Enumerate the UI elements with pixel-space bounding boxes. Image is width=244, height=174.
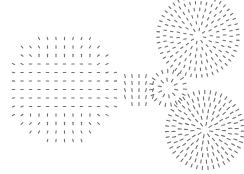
dash-glyph	[188, 94, 189, 97]
dash-glyph	[186, 162, 188, 165]
dash-glyph	[231, 155, 233, 157]
dash-glyph	[213, 112, 214, 115]
dash-glyph	[196, 146, 197, 149]
dash-glyph	[237, 146, 240, 147]
dash-glyph	[211, 118, 213, 121]
dash-glyph	[217, 70, 218, 72]
dash-glyph	[186, 43, 188, 45]
large-left-grid-circle	[12, 37, 116, 141]
dash-glyph	[202, 32, 204, 33]
dash-glyph	[201, 123, 203, 126]
dash-glyph	[210, 131, 213, 132]
dash-glyph	[12, 72, 14, 73]
dash-glyph	[222, 125, 225, 126]
dash-glyph	[209, 30, 211, 31]
dash-glyph	[203, 141, 204, 144]
dash-glyph	[188, 118, 191, 120]
dash-glyph	[227, 9, 229, 11]
dash-glyph	[234, 139, 237, 140]
dash-glyph	[21, 106, 23, 107]
dash-glyph	[190, 23, 191, 25]
dash-glyph	[179, 16, 181, 18]
dash-field-diagram	[0, 0, 244, 174]
dash-glyph	[195, 159, 196, 162]
dash-glyph	[173, 137, 176, 138]
dash-glyph	[176, 52, 178, 54]
dash-glyph	[158, 26, 161, 27]
dash-glyph	[171, 15, 173, 17]
dash-glyph	[223, 162, 225, 165]
dash-glyph	[186, 28, 188, 29]
dash-glyph	[98, 114, 100, 115]
dash-glyph	[181, 159, 183, 162]
dash-glyph	[125, 89, 126, 92]
dash-glyph	[225, 64, 227, 66]
dash-glyph	[212, 72, 213, 74]
dash-glyph	[214, 98, 215, 101]
dash-glyph	[192, 99, 193, 102]
dash-glyph	[156, 73, 158, 75]
dash-glyph	[205, 9, 206, 12]
dash-glyph	[114, 106, 116, 107]
dash-glyph	[215, 92, 216, 95]
dash-glyph	[219, 140, 222, 142]
dash-glyph	[171, 42, 174, 43]
dash-glyph	[181, 118, 184, 119]
dash-glyph	[221, 67, 223, 69]
dash-glyph	[196, 119, 198, 121]
dash-glyph	[165, 11, 167, 13]
dash-glyph	[206, 53, 207, 55]
dash-glyph	[174, 59, 176, 61]
dash-glyph	[30, 123, 32, 125]
dash-glyph	[38, 46, 39, 48]
dash-glyph	[183, 12, 184, 14]
dash-glyph	[201, 40, 202, 42]
dash-glyph	[226, 20, 228, 21]
dash-glyph	[177, 73, 179, 76]
dash-glyph	[215, 0, 216, 1]
dash-glyph	[81, 131, 82, 133]
dash-glyph	[98, 46, 100, 48]
dash-glyph	[175, 115, 178, 116]
dash-glyph	[221, 155, 223, 158]
dash-glyph	[199, 104, 200, 107]
dash-glyph	[197, 128, 200, 129]
dash-glyph	[206, 45, 208, 47]
dash-glyph	[192, 16, 193, 18]
dash-glyph	[236, 45, 239, 46]
dash-glyph	[202, 47, 203, 49]
dash-glyph	[229, 60, 231, 62]
dash-glyph	[227, 159, 229, 162]
dash-glyph	[191, 164, 192, 167]
dash-glyph	[229, 148, 232, 150]
dash-glyph	[173, 120, 176, 121]
dash-glyph	[178, 43, 180, 44]
dash-glyph	[209, 126, 212, 128]
dash-glyph	[211, 65, 212, 67]
dash-glyph	[179, 123, 182, 124]
dash-glyph	[185, 134, 188, 135]
dash-glyph	[47, 37, 48, 39]
dash-glyph	[175, 68, 176, 70]
dash-glyph	[38, 37, 39, 39]
dash-glyph	[197, 153, 198, 156]
dash-glyph	[146, 75, 147, 78]
dash-glyph	[98, 123, 100, 125]
dash-glyph	[197, 166, 198, 169]
dash-glyph	[208, 141, 209, 144]
dash-glyph	[187, 139, 190, 141]
dash-glyph	[240, 120, 243, 121]
dash-glyph	[190, 2, 191, 5]
dash-glyph	[159, 48, 161, 49]
dash-glyph	[175, 20, 177, 21]
dash-glyph	[206, 2, 207, 5]
dash-glyph	[170, 147, 173, 148]
dash-glyph	[38, 122, 39, 124]
dash-glyph	[241, 136, 244, 137]
dash-glyph	[212, 57, 213, 59]
dash-glyph	[215, 105, 216, 108]
dash-glyph	[233, 18, 235, 19]
dash-glyph	[191, 150, 193, 153]
dash-glyph	[191, 143, 193, 145]
dash-glyph	[171, 110, 174, 112]
